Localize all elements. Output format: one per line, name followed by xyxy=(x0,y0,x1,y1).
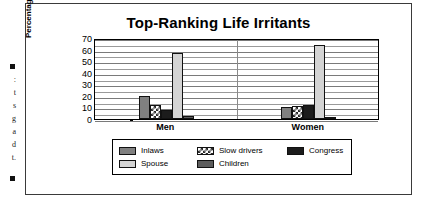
bar-congress-women xyxy=(303,105,314,119)
legend-label: Children xyxy=(219,159,249,168)
legend-label: Inlaws xyxy=(141,146,164,155)
legend-row-1: Inlaws Slow drivers Congress xyxy=(119,144,345,157)
bar-spouse-women xyxy=(314,45,325,119)
y-tick-label: 10 xyxy=(82,104,92,113)
y-tick-label: 50 xyxy=(82,58,92,67)
bleed-text-fragment: : xyxy=(14,76,16,84)
legend-swatch-icon xyxy=(287,147,304,155)
legend-item-congress: Congress xyxy=(287,146,343,155)
legend-swatch-icon xyxy=(197,160,214,168)
legend-label: Congress xyxy=(309,146,343,155)
y-axis-tick-labels: 706050403020100 xyxy=(68,36,92,123)
chart-legend: Inlaws Slow drivers Congress Spouse xyxy=(112,139,352,175)
x-axis-label-women: Women xyxy=(237,122,380,132)
bar-children-women xyxy=(325,117,336,119)
bleed-text-fragment: t. xyxy=(12,154,16,162)
legend-row-2: Spouse Children xyxy=(119,157,345,170)
bar-slow-drivers-women xyxy=(292,106,303,119)
y-tick-label: 60 xyxy=(82,46,92,55)
chart-frame: Top-Ranking Life Irritants Percentage Ra… xyxy=(25,3,412,195)
y-tick-label: 20 xyxy=(82,92,92,101)
bullet-marker xyxy=(10,176,15,181)
legend-item-spouse: Spouse xyxy=(119,159,197,168)
legend-item-inlaws: Inlaws xyxy=(119,146,197,155)
bleed-text-fragment: g xyxy=(12,115,16,123)
bar-inlaws-men xyxy=(139,96,150,119)
bleed-text-fragment: d xyxy=(12,141,16,149)
x-axis-label-men: Men xyxy=(94,122,237,132)
legend-label: Slow drivers xyxy=(219,146,263,155)
y-tick-label: 0 xyxy=(87,116,92,125)
page-edge-bleed: :tsgadt. xyxy=(0,0,18,200)
legend-item-children: Children xyxy=(197,159,287,168)
bar-inlaws-women xyxy=(281,107,292,119)
bar-slow-drivers-men xyxy=(150,105,161,119)
bullet-marker xyxy=(10,64,15,69)
plot-area xyxy=(94,39,379,120)
y-tick-label: 30 xyxy=(82,81,92,90)
x-axis-tick-labels: MenWomen xyxy=(94,122,379,136)
legend-swatch-icon xyxy=(119,147,136,155)
bleed-text-fragment: a xyxy=(12,128,16,136)
chart-canvas: Top-Ranking Life Irritants Percentage Ra… xyxy=(30,8,407,190)
y-tick-label: 70 xyxy=(82,35,92,44)
bleed-text-fragment: s xyxy=(13,102,16,110)
bar-spouse-men xyxy=(172,53,183,119)
chart-title: Top-Ranking Life Irritants xyxy=(30,14,407,31)
bars-layer xyxy=(95,40,378,119)
bleed-text-fragment: t xyxy=(14,89,16,97)
y-tick-label: 40 xyxy=(82,69,92,78)
bar-congress-men xyxy=(161,110,172,119)
legend-label: Spouse xyxy=(141,159,168,168)
legend-swatch-icon xyxy=(119,160,136,168)
legend-item-slow-drivers: Slow drivers xyxy=(197,146,287,155)
bar-children-men xyxy=(183,116,194,119)
legend-swatch-icon xyxy=(197,147,214,155)
y-axis-title: Percentage Ranking #1 xyxy=(24,0,33,38)
